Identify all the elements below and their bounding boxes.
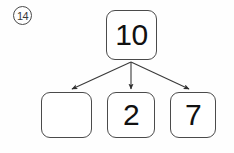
worksheet-problem-canvas: 14 10 2 7	[0, 0, 234, 153]
part-value-3: 7	[185, 100, 201, 130]
part-box-1-blank[interactable]	[41, 92, 92, 138]
arrow-to-part-1	[72, 62, 131, 89]
part-box-2[interactable]: 2	[107, 92, 155, 138]
part-box-3[interactable]: 7	[170, 92, 216, 138]
whole-value: 10	[115, 20, 147, 50]
part-value-2: 2	[123, 100, 139, 130]
arrow-to-part-3	[131, 62, 189, 89]
whole-box[interactable]: 10	[106, 10, 157, 60]
